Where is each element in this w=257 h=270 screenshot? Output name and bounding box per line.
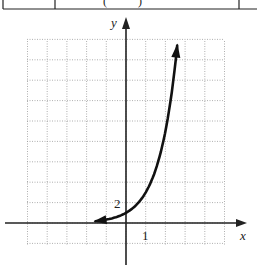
y-axis-label: y — [109, 15, 117, 30]
y-tick-label-2: 2 — [114, 196, 121, 211]
y-axis-arrow-icon — [122, 17, 130, 29]
table-fragment: ( ) — [3, 0, 257, 9]
curve-right-arrow-icon — [171, 44, 180, 59]
exponential-graph: ( ) y x 2 1 — [0, 0, 257, 270]
x-axis-label: x — [239, 228, 246, 243]
exponential-curve — [96, 46, 178, 222]
x-tick-label-1: 1 — [142, 228, 149, 243]
table-cell-parens: ( ) — [103, 0, 156, 8]
x-axis-arrow-icon — [236, 219, 247, 227]
axes — [5, 17, 247, 265]
